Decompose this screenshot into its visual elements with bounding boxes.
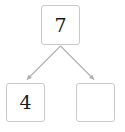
edge-root-to-left-child bbox=[27, 46, 61, 80]
tree-diagram-canvas: 7 4 bbox=[0, 0, 125, 132]
tree-node-root-label: 7 bbox=[54, 16, 66, 35]
tree-node-left-child[interactable]: 4 bbox=[6, 83, 45, 122]
edge-root-to-right-child bbox=[61, 46, 95, 80]
tree-node-right-child[interactable] bbox=[76, 83, 115, 122]
tree-node-root[interactable]: 7 bbox=[41, 5, 80, 45]
tree-node-left-child-label: 4 bbox=[19, 93, 31, 112]
